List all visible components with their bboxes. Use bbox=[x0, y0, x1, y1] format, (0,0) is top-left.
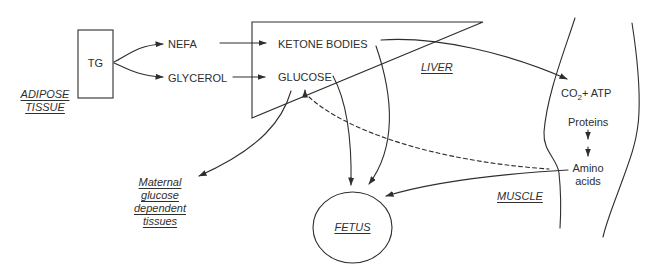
adipose-tissue-line1: ADIPOSE bbox=[9, 88, 81, 101]
metabolic-pathway-diagram: ADIPOSE TISSUE TG NEFA GLYCEROL KETONE B… bbox=[0, 0, 658, 272]
maternal-line2: glucose bbox=[118, 189, 202, 202]
tg-label: TG bbox=[78, 57, 113, 70]
amino-acids-label: Amino acids bbox=[558, 162, 618, 188]
nefa-label: NEFA bbox=[168, 38, 197, 51]
arrow-glucose-to-maternal-tissues bbox=[199, 91, 291, 176]
muscle-label: MUSCLE bbox=[497, 190, 543, 203]
arrow-ketone-bodies-to-co2-atp bbox=[381, 39, 567, 79]
glycerol-label: GLYCEROL bbox=[168, 72, 227, 85]
amino-acids-line2: acids bbox=[558, 175, 618, 188]
glucose-label: GLUCOSE bbox=[278, 71, 332, 84]
adipose-tissue-label: ADIPOSE TISSUE bbox=[9, 88, 81, 114]
arrow-ketone-bodies-to-fetus bbox=[369, 46, 389, 184]
arrow-tg-to-nefa bbox=[114, 44, 163, 62]
maternal-tissues-label: Maternal glucose dependent tissues bbox=[118, 176, 202, 228]
fetus-label: FETUS bbox=[312, 221, 393, 234]
arrow-tg-to-glycerol bbox=[114, 63, 163, 77]
maternal-line1: Maternal bbox=[118, 176, 202, 189]
maternal-line4: tissues bbox=[118, 215, 202, 228]
arrow-glucose-to-fetus bbox=[333, 76, 351, 185]
co2-base: CO bbox=[561, 87, 578, 99]
co2-atp-label: CO2+ ATP bbox=[561, 87, 611, 100]
ketone-bodies-label: KETONE BODIES bbox=[278, 38, 368, 51]
atp-suffix: + ATP bbox=[582, 87, 611, 99]
muscle-right-outline bbox=[603, 23, 639, 237]
liver-label: LIVER bbox=[421, 61, 453, 74]
proteins-label: Proteins bbox=[568, 116, 608, 129]
maternal-line3: dependent bbox=[118, 202, 202, 215]
amino-acids-line1: Amino bbox=[558, 162, 618, 175]
adipose-tissue-line2: TISSUE bbox=[9, 101, 81, 114]
